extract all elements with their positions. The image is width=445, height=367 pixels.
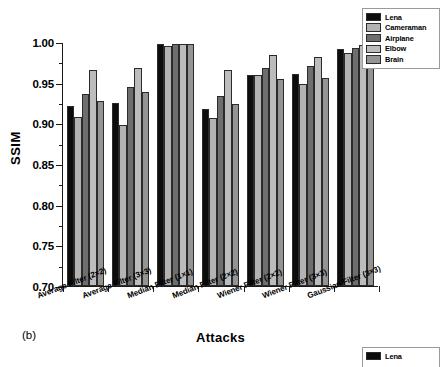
legend-item-label: Elbow [385,44,406,53]
bar [119,125,126,286]
bar [97,101,104,286]
legend-item[interactable]: Brain [366,54,436,64]
bar [277,79,284,286]
y-axis-tick-label: 0.85 [32,159,54,171]
legend-color-swatch [366,23,381,32]
bar [299,84,306,286]
bar [179,44,186,286]
bar [367,49,374,286]
legend-color-swatch [366,352,381,361]
bars-layer [63,43,378,286]
chart-legend-secondary: Lena [362,347,440,367]
y-axis-title: SSIM [8,131,23,165]
y-axis-minor-tick [59,267,63,268]
y-axis-minor-tick [59,226,63,227]
legend-item-label: Airplane [385,34,414,43]
bar [262,68,269,286]
bar [202,109,209,286]
y-axis-tick [56,124,63,125]
bar-group [153,43,198,286]
bar [344,53,351,286]
bar [74,117,81,286]
legend-item-label: Brain [385,55,403,64]
bar [269,55,276,286]
bar-group [243,43,288,286]
bar [82,94,89,286]
legend-secondary-item[interactable]: Lena [366,351,436,361]
legend-item-label: Lena [385,352,402,361]
bar [247,75,254,286]
bar [292,74,299,286]
panel-label: (b) [22,329,36,341]
bar-group [108,43,153,286]
bar [164,46,171,286]
y-axis-tick [56,165,63,166]
y-axis-minor-tick [59,185,63,186]
plot-area: 0.700.750.800.850.900.951.00 [62,43,378,287]
y-axis-tick [56,84,63,85]
bar [254,75,261,286]
y-axis-tick-label: 0.75 [32,240,54,252]
bar [224,70,231,286]
bar [127,87,134,286]
legend-item[interactable]: Elbow [366,44,436,54]
bar [352,48,359,286]
y-axis-tick-label: 0.95 [32,78,54,90]
bar [67,106,74,286]
bar [314,57,321,286]
y-axis-tick [56,246,63,247]
bar [134,68,141,286]
legend-item[interactable]: Cameraman [366,23,436,33]
bar [322,78,329,286]
bar [157,44,164,286]
y-axis-minor-tick [59,104,63,105]
y-axis-tick [56,43,63,44]
bar [142,92,149,286]
legend-item[interactable]: Lena [366,12,436,22]
bar-group [288,43,333,286]
bar [232,104,239,286]
x-axis-title: Attacks [196,330,245,345]
y-axis-tick-label: 0.80 [32,200,54,212]
bar-group [333,43,378,286]
bar [209,118,216,286]
legend-color-swatch [366,13,381,22]
chart-legend: LenaCameramanAirplaneElbowBrain [362,8,440,69]
y-axis-minor-tick [59,63,63,64]
bar [172,44,179,286]
y-axis-tick [56,206,63,207]
bar [89,70,96,286]
legend-item-label: Cameraman [385,23,426,32]
legend-color-swatch [366,55,381,64]
bar [112,103,119,286]
bar-group [198,43,243,286]
bar [359,45,366,286]
bar [307,66,314,286]
legend-color-swatch [366,34,381,43]
y-axis-minor-tick [59,145,63,146]
bar [187,44,194,286]
legend-item[interactable]: Airplane [366,33,436,43]
bar-group [63,43,108,286]
x-axis-tick [379,286,380,292]
bar [217,96,224,286]
y-axis-tick-label: 1.00 [32,37,54,49]
legend-item-label: Lena [385,13,402,22]
y-axis-tick-label: 0.90 [32,118,54,130]
legend-color-swatch [366,45,381,54]
bar [337,49,344,286]
